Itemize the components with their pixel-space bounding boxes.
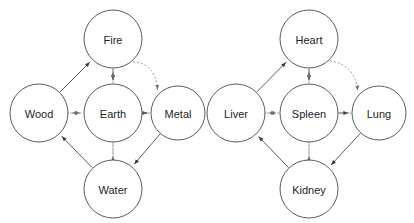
edge-liver-to-heart [257, 62, 286, 92]
node-water[interactable]: Water [84, 160, 142, 218]
edge-wood-to-fire [60, 62, 90, 92]
node-label-spleen: Spleen [292, 108, 326, 120]
node-label-lung: Lung [367, 108, 391, 120]
node-spleen[interactable]: Spleen [280, 84, 338, 142]
node-layer: FireWoodEarthMetalWaterHeartLiverSpleenL… [10, 10, 406, 218]
edge-water-to-wood [62, 136, 92, 167]
edge-heart-to-lung [330, 61, 358, 91]
node-label-kidney: Kidney [292, 184, 326, 196]
node-kidney[interactable]: Kidney [280, 160, 338, 218]
node-liver[interactable]: Liver [207, 84, 265, 142]
node-wood[interactable]: Wood [10, 84, 68, 142]
node-label-wood: Wood [25, 108, 54, 120]
edge-kidney-to-liver [259, 137, 289, 168]
node-fire[interactable]: Fire [84, 10, 142, 68]
node-label-heart: Heart [296, 34, 323, 46]
node-label-fire: Fire [104, 34, 123, 46]
diagram-canvas: FireWoodEarthMetalWaterHeartLiverSpleenL… [0, 0, 414, 223]
node-heart[interactable]: Heart [280, 10, 338, 68]
node-label-metal: Metal [165, 108, 192, 120]
node-label-liver: Liver [224, 108, 248, 120]
node-earth[interactable]: Earth [84, 84, 142, 142]
edge-metal-to-water [134, 134, 160, 164]
edge-fire-to-metal [133, 62, 158, 90]
edge-lung-to-kidney [331, 133, 360, 165]
node-lung[interactable]: Lung [352, 86, 406, 140]
node-label-water: Water [99, 184, 128, 196]
node-label-earth: Earth [100, 108, 126, 120]
five-elements-zang-organs-diagram: FireWoodEarthMetalWaterHeartLiverSpleenL… [0, 0, 414, 223]
node-metal[interactable]: Metal [151, 86, 205, 140]
